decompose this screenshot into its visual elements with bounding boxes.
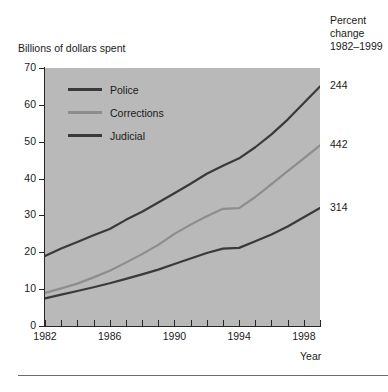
- x-axis-title: Year: [300, 350, 321, 362]
- legend-label: Police: [110, 84, 139, 96]
- x-tick-label: 1998: [284, 330, 324, 342]
- y-tick-label: 40: [12, 172, 36, 184]
- y-tick-label: 10: [12, 282, 36, 294]
- percent-change-header: Percent change 1982–1999: [330, 14, 383, 53]
- x-tick-label: 1986: [90, 330, 130, 342]
- legend-label: Judicial: [110, 130, 145, 142]
- x-tick-mark: [110, 320, 111, 326]
- x-tick-mark: [158, 320, 159, 326]
- legend-swatch-icon: [68, 134, 102, 137]
- x-tick-mark: [191, 320, 192, 326]
- y-tick-label: 30: [12, 208, 36, 220]
- x-tick-mark: [320, 320, 321, 326]
- y-tick-mark: [39, 215, 45, 216]
- x-axis-line: [44, 326, 321, 327]
- x-tick-mark: [94, 320, 95, 326]
- x-tick-mark: [255, 320, 256, 326]
- legend-item-corrections[interactable]: Corrections: [68, 101, 164, 124]
- percent-change-value-corrections: 442: [330, 138, 348, 150]
- percent-change-value-police: 244: [330, 79, 348, 91]
- y-tick-mark: [39, 289, 45, 290]
- percent-change-header-line3: 1982–1999: [330, 40, 383, 53]
- x-tick-mark: [142, 320, 143, 326]
- x-tick-mark: [304, 320, 305, 326]
- series-line-corrections: [45, 145, 320, 292]
- x-tick-label: 1990: [154, 330, 194, 342]
- y-tick-mark: [39, 68, 45, 69]
- legend-item-police[interactable]: Police: [68, 78, 164, 101]
- y-axis-line: [44, 67, 45, 327]
- x-tick-mark: [288, 320, 289, 326]
- y-tick-mark: [39, 179, 45, 180]
- y-tick-mark: [39, 252, 45, 253]
- y-tick-label: 60: [12, 98, 36, 110]
- x-tick-mark: [271, 320, 272, 326]
- y-tick-mark: [39, 105, 45, 106]
- series-line-judicial: [45, 208, 320, 298]
- legend-swatch-icon: [68, 111, 102, 114]
- x-tick-mark: [174, 320, 175, 326]
- percent-change-header-line1: Percent: [330, 14, 383, 27]
- x-tick-mark: [45, 320, 46, 326]
- y-tick-label: 70: [12, 61, 36, 73]
- y-tick-label: 20: [12, 245, 36, 257]
- x-tick-label: 1982: [25, 330, 65, 342]
- bottom-divider-rule: [18, 375, 388, 376]
- legend-swatch-icon: [68, 88, 102, 91]
- legend-item-judicial[interactable]: Judicial: [68, 124, 164, 147]
- x-tick-label: 1994: [219, 330, 259, 342]
- chart-legend: PoliceCorrectionsJudicial: [68, 78, 164, 147]
- x-tick-mark: [207, 320, 208, 326]
- percent-change-header-line2: change: [330, 27, 383, 40]
- y-tick-mark: [39, 142, 45, 143]
- x-tick-mark: [61, 320, 62, 326]
- y-tick-label: 50: [12, 135, 36, 147]
- x-tick-mark: [223, 320, 224, 326]
- y-tick-mark: [39, 326, 45, 327]
- x-tick-mark: [77, 320, 78, 326]
- percent-change-value-judicial: 314: [330, 201, 348, 213]
- x-tick-mark: [126, 320, 127, 326]
- legend-label: Corrections: [110, 107, 164, 119]
- x-tick-mark: [239, 320, 240, 326]
- y-axis-title: Billions of dollars spent: [18, 42, 125, 54]
